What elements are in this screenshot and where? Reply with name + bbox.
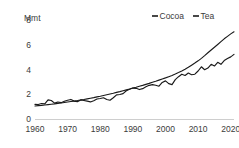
x-axis-tick-label: 1960 (26, 124, 45, 134)
y-axis-tick-labels: 02468 (26, 15, 31, 124)
x-axis-tick-label: 2020 (221, 124, 239, 134)
y-axis-tick-label: 2 (26, 89, 31, 99)
data-series-group (35, 32, 234, 106)
chart-legend: CocoaTea (152, 11, 214, 21)
y-axis-unit-label: Mmt (24, 13, 41, 23)
line-chart: 02468 1960197019801990200020102020 Mmt C… (0, 0, 239, 148)
legend-label-cocoa: Cocoa (160, 11, 185, 21)
legend-label-tea: Tea (201, 11, 215, 21)
x-axis-tick-labels: 1960197019801990200020102020 (26, 124, 239, 134)
y-axis-tick-label: 0 (26, 114, 31, 124)
y-axis-tick-label: 6 (26, 40, 31, 50)
x-axis-tick-label: 1980 (91, 124, 110, 134)
x-axis-tick-label: 1990 (123, 124, 142, 134)
series-line-cocoa (35, 54, 234, 104)
x-axis-tick-label: 2010 (189, 124, 208, 134)
y-axis-tick-label: 4 (26, 65, 31, 75)
x-axis-tick-label: 1970 (58, 124, 77, 134)
x-axis-tick-label: 2000 (156, 124, 175, 134)
chart-container: 02468 1960197019801990200020102020 Mmt C… (0, 0, 239, 148)
